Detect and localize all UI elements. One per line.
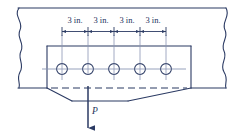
dimension-label-4: 3 in. (140, 15, 166, 25)
dimension-label-3: 3 in. (114, 15, 140, 25)
tearout-left-incline (47, 88, 72, 101)
figure-container: 3 in. 3 in. 3 in. 3 in. P (0, 0, 243, 133)
right-wavy-break-line (222, 8, 227, 88)
dimension-label-1: 3 in. (62, 15, 88, 25)
load-label-P: P (92, 106, 98, 116)
left-wavy-break-line (17, 8, 22, 88)
tearout-right-incline (128, 88, 191, 101)
dimension-label-2: 3 in. (88, 15, 114, 25)
